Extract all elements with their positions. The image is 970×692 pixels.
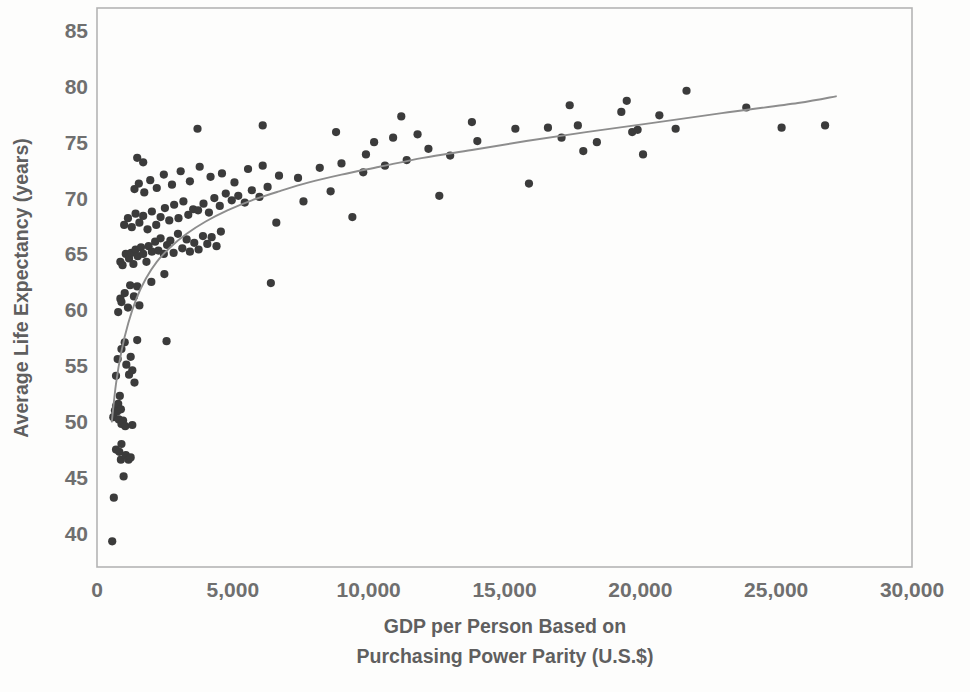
data-point (153, 184, 161, 192)
data-point (146, 176, 154, 184)
y-tick-label: 40 (65, 522, 88, 545)
y-tick-label: 60 (65, 298, 88, 321)
x-axis-title-line1: GDP per Person Based on (384, 615, 626, 637)
x-tick-label: 0 (91, 578, 103, 601)
data-point (230, 178, 238, 186)
data-point (156, 234, 164, 242)
data-point (168, 181, 176, 189)
data-point (178, 244, 186, 252)
data-point (133, 336, 141, 344)
y-tick-label: 50 (65, 410, 88, 433)
x-tick-label: 20,000 (608, 578, 672, 601)
y-tick-label: 75 (65, 131, 89, 154)
x-axis-title-line2: Purchasing Power Parity (U.S.$) (357, 645, 654, 667)
data-point (267, 279, 275, 287)
data-point (634, 126, 642, 134)
y-tick-label: 70 (65, 187, 88, 210)
data-point (117, 298, 125, 306)
data-point (177, 167, 185, 175)
x-tick-label: 15,000 (472, 578, 536, 601)
data-point (129, 260, 137, 268)
data-point (623, 97, 631, 105)
data-point (299, 197, 307, 205)
data-point (511, 125, 519, 133)
data-point (116, 392, 124, 400)
data-point (170, 249, 178, 257)
data-point (617, 108, 625, 116)
data-point (244, 165, 252, 173)
y-tick-label: 65 (65, 242, 89, 265)
data-point (579, 147, 587, 155)
y-tick-label: 55 (65, 354, 89, 377)
chart-canvas: 40455055606570758085 05,00010,00015,0002… (0, 0, 970, 692)
x-tick-label: 25,000 (744, 578, 808, 601)
data-point (127, 353, 135, 361)
data-point (130, 378, 138, 386)
data-point (327, 187, 335, 195)
data-point (259, 162, 267, 170)
y-tick-label: 85 (65, 19, 89, 42)
data-point (110, 494, 118, 502)
data-point (316, 164, 324, 172)
data-point (121, 289, 129, 297)
data-point (160, 270, 168, 278)
data-point (174, 230, 182, 238)
data-point (193, 125, 201, 133)
data-point (435, 192, 443, 200)
data-point (413, 130, 421, 138)
data-point (348, 213, 356, 221)
data-point (264, 183, 272, 191)
data-point (275, 172, 283, 180)
scatter-plot-figure: 40455055606570758085 05,00010,00015,0002… (0, 0, 970, 692)
data-point (196, 163, 204, 171)
data-point (362, 150, 370, 158)
data-point (142, 258, 150, 266)
data-point (199, 232, 207, 240)
y-tick-label: 80 (65, 75, 88, 98)
data-point (124, 214, 132, 222)
data-point (186, 248, 194, 256)
data-point (139, 212, 147, 220)
data-point (179, 197, 187, 205)
data-point (128, 421, 136, 429)
data-point (473, 137, 481, 145)
data-point (139, 158, 147, 166)
data-point (135, 301, 143, 309)
y-tick-label: 45 (65, 466, 89, 489)
data-point (152, 221, 160, 229)
x-tick-label: 10,000 (337, 578, 401, 601)
data-point (174, 214, 182, 222)
data-point (294, 174, 302, 182)
data-point (203, 240, 211, 248)
data-point (272, 219, 280, 227)
data-point (186, 177, 194, 185)
data-point (218, 169, 226, 177)
data-point (170, 201, 178, 209)
data-point (525, 179, 533, 187)
data-point (337, 159, 345, 167)
data-point (821, 121, 829, 129)
data-point (117, 405, 125, 413)
data-point (199, 200, 207, 208)
data-point (126, 281, 134, 289)
data-point (566, 101, 574, 109)
data-point (234, 192, 242, 200)
data-point (332, 128, 340, 136)
data-point (248, 186, 256, 194)
data-point (194, 206, 202, 214)
data-point (397, 112, 405, 120)
data-point (160, 170, 168, 178)
data-point (108, 537, 116, 545)
data-point (212, 242, 220, 250)
data-point (216, 202, 224, 210)
data-point (114, 308, 122, 316)
data-point (128, 366, 136, 374)
data-point (370, 138, 378, 146)
data-point (593, 138, 601, 146)
data-point (161, 204, 169, 212)
data-point (162, 337, 170, 345)
data-point (682, 87, 690, 95)
data-point (118, 261, 126, 269)
data-point (195, 245, 203, 253)
data-point (655, 111, 663, 119)
